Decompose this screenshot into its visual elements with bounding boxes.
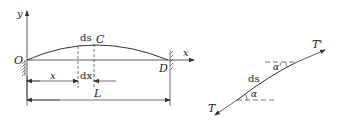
cable-curve (27, 45, 168, 60)
y-axis-label: y (16, 8, 23, 19)
element-ds-label: ds (248, 73, 260, 84)
end-label: D (158, 62, 168, 75)
cable-element-curve (237, 62, 297, 100)
x-axis-label: x (183, 47, 189, 58)
origin-label: O (14, 54, 23, 67)
tension-end-arrow (297, 50, 325, 62)
cable-element-figure: T T' ds α α' (208, 38, 325, 115)
tension-start-arrow (215, 100, 237, 115)
dim-dx-label: dx (80, 70, 92, 81)
apex-label: C (96, 33, 105, 46)
cable-span-figure: y x O D C ds x dx L (14, 8, 194, 106)
angle-start-label: α (251, 89, 257, 99)
cable-diagram: y x O D C ds x dx L T T' ds α α' (0, 0, 339, 127)
angle-arc-end (286, 62, 287, 67)
element-label: ds (80, 32, 92, 43)
dim-l-label: L (93, 87, 101, 100)
angle-arc-start (245, 94, 247, 100)
angle-end-label: α' (273, 62, 282, 72)
tension-end-label: T' (312, 38, 322, 51)
tension-start-label: T (208, 102, 217, 115)
dim-x-label: x (50, 70, 56, 81)
